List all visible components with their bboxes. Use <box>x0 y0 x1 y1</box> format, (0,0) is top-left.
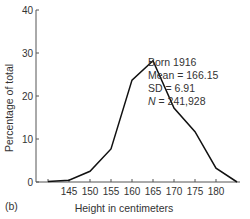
annotation-sd: SD = 6.91 <box>148 82 195 94</box>
annotation-n: N = 241,928 <box>148 95 206 107</box>
x-tick-label: 165 <box>145 186 162 197</box>
x-tick-label: 145 <box>61 186 78 197</box>
y-tick-label: 40 <box>22 5 34 16</box>
x-tick-label: 175 <box>187 186 204 197</box>
panel-label: (b) <box>5 200 18 212</box>
x-tick-label: 150 <box>82 186 99 197</box>
annotation-mean: Mean = 166.15 <box>148 69 219 81</box>
x-tick-label: 160 <box>124 186 141 197</box>
x-tick-label: 180 <box>208 186 225 197</box>
chart: 010203040145150155160165170175180Height … <box>0 0 250 219</box>
y-tick-label: 0 <box>27 177 33 188</box>
x-tick-label: 155 <box>103 186 120 197</box>
annotation-born: Born 1916 <box>148 56 197 68</box>
x-tick-label: 170 <box>166 186 183 197</box>
y-tick-label: 30 <box>22 48 34 59</box>
y-axis-title: Percentage of total <box>3 64 15 152</box>
y-tick-label: 20 <box>22 91 34 102</box>
y-tick-label: 10 <box>22 134 34 145</box>
x-axis-title: Height in centimeters <box>75 202 174 214</box>
